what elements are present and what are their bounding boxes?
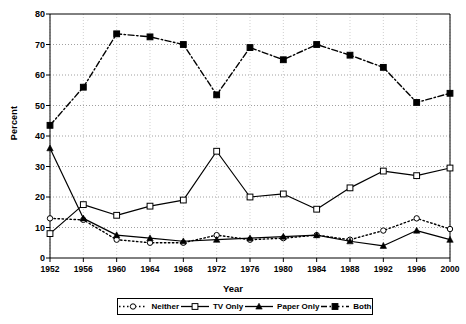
data-point (347, 52, 353, 58)
y-tick-label: 0 (19, 253, 45, 263)
data-point (380, 168, 386, 174)
data-point (247, 194, 253, 200)
legend-item-both[interactable]: Both (320, 301, 371, 312)
data-point (47, 231, 53, 237)
data-point (180, 42, 186, 48)
data-point (114, 212, 120, 218)
data-point (314, 206, 320, 212)
data-point (447, 226, 452, 231)
data-point (214, 148, 220, 154)
chart-container: Percent Year 01020304050607080 195219561… (0, 0, 466, 324)
legend-key-marker (192, 304, 198, 310)
y-tick-label: 20 (19, 192, 45, 202)
data-point (147, 203, 153, 209)
y-tick-label: 50 (19, 101, 45, 111)
data-point (147, 34, 153, 40)
y-tick-label: 80 (19, 9, 45, 19)
y-tick-label: 10 (19, 223, 45, 233)
legend-item-neither[interactable]: Neither (118, 301, 179, 312)
legend-key-filled-triangle-icon (244, 301, 274, 312)
data-point (280, 57, 286, 63)
data-point (247, 45, 253, 51)
data-point (414, 216, 419, 221)
data-point (447, 165, 453, 171)
data-point (180, 197, 186, 203)
legend-key-marker (131, 304, 136, 309)
data-point (414, 100, 420, 106)
y-tick-label: 30 (19, 162, 45, 172)
data-point (47, 216, 52, 221)
data-point (280, 191, 286, 197)
data-point (380, 64, 386, 70)
data-point (447, 90, 453, 96)
chart-legend: NeitherTV OnlyPaper OnlyBoth (117, 298, 373, 315)
y-tick-label: 60 (19, 70, 45, 80)
data-point (114, 31, 120, 37)
legend-item-tv-only[interactable]: TV Only (180, 301, 243, 312)
y-tick-label: 40 (19, 131, 45, 141)
plot-area (0, 0, 466, 324)
x-axis-title: Year (0, 283, 466, 294)
data-point (47, 122, 53, 128)
data-point (347, 185, 353, 191)
legend-label: TV Only (213, 302, 243, 311)
data-point (47, 145, 53, 151)
x-tick-label: 2000 (430, 264, 466, 274)
legend-key-filled-square-icon (320, 301, 350, 312)
legend-item-paper-only[interactable]: Paper Only (244, 301, 319, 312)
legend-label: Paper Only (277, 302, 319, 311)
legend-label: Neither (151, 302, 179, 311)
legend-key-marker (332, 304, 338, 310)
data-point (80, 84, 86, 90)
legend-label: Both (353, 302, 371, 311)
data-point (381, 228, 386, 233)
data-point (214, 92, 220, 98)
y-tick-label: 70 (19, 40, 45, 50)
legend-key-open-circle-icon (118, 301, 148, 312)
data-point (80, 202, 86, 208)
data-point (314, 42, 320, 48)
data-point (414, 173, 420, 179)
legend-key-open-square-icon (180, 301, 210, 312)
y-axis-title: Percent (9, 83, 19, 163)
data-point (413, 227, 419, 233)
